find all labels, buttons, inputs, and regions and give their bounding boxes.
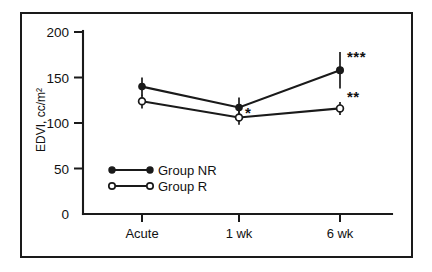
y-tick-label-50: 50 bbox=[54, 162, 69, 177]
legend: Group NR Group R bbox=[109, 163, 217, 194]
legend-marker-filled-icon bbox=[109, 167, 115, 173]
significance-marker-6wk-nr: *** bbox=[347, 48, 366, 65]
y-tick-label-0: 0 bbox=[61, 207, 69, 222]
y-axis-title: EDVI, cc/m² bbox=[34, 88, 48, 152]
y-tick-label-100: 100 bbox=[46, 116, 69, 131]
figure-root: 200 150 100 50 0 EDVI, cc/m² Acute 1 wk … bbox=[0, 0, 432, 272]
y-tick-label-200: 200 bbox=[46, 25, 69, 40]
datapoint-nr-acute bbox=[139, 83, 145, 89]
significance-marker-6wk-r: ** bbox=[347, 88, 360, 105]
legend-item-group-r[interactable]: Group R bbox=[109, 179, 207, 194]
x-tick-label-1wk: 1 wk bbox=[226, 226, 253, 241]
chart-canvas: 200 150 100 50 0 EDVI, cc/m² Acute 1 wk … bbox=[0, 0, 432, 272]
datapoint-r-acute bbox=[139, 98, 146, 105]
legend-label-group-nr: Group NR bbox=[158, 163, 217, 178]
legend-marker-open-end-icon bbox=[147, 183, 153, 189]
datapoint-nr-6wk bbox=[337, 67, 344, 74]
datapoint-r-1wk bbox=[236, 114, 243, 121]
legend-marker-open-icon bbox=[109, 183, 115, 189]
x-tick-label-acute: Acute bbox=[125, 226, 158, 241]
series-line-group-nr bbox=[142, 70, 340, 107]
y-tick-label-150: 150 bbox=[46, 71, 69, 86]
datapoint-r-6wk bbox=[337, 105, 344, 112]
legend-marker-filled-end-icon bbox=[147, 167, 153, 173]
datapoint-nr-1wk bbox=[236, 104, 242, 110]
x-tick-label-6wk: 6 wk bbox=[327, 226, 354, 241]
legend-item-group-nr[interactable]: Group NR bbox=[109, 163, 217, 178]
significance-marker-1wk-r: * bbox=[245, 104, 251, 121]
legend-label-group-r: Group R bbox=[158, 179, 207, 194]
